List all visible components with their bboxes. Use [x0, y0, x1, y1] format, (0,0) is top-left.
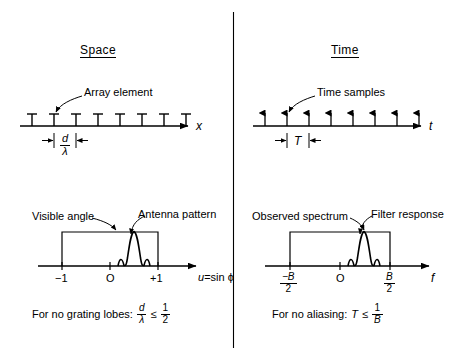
array-element	[71, 114, 81, 126]
space-tick-zero: O	[106, 273, 115, 284]
array-element	[159, 114, 169, 126]
figure-root: Space Array element x d λ Visible angle …	[0, 0, 465, 359]
visible-angle-box	[62, 232, 158, 266]
grating-lhs-num: d	[137, 303, 147, 315]
visible-angle-label: Visible angle	[32, 211, 94, 222]
grating-lhs-den: λ	[137, 315, 147, 326]
spectrum-tick-minus-b-over-2: −B 2	[280, 272, 297, 294]
aliasing-relation: ≤	[362, 309, 368, 320]
space-axis-label: x	[196, 120, 202, 132]
space-u-axis-label: u=sin ϕ	[198, 272, 234, 283]
array-elements	[27, 114, 191, 126]
antenna-pattern-label: Antenna pattern	[138, 209, 216, 220]
aliasing-rhs: 1 B	[372, 303, 383, 325]
visible-angle-leader	[92, 218, 116, 230]
array-element-label: Array element	[84, 87, 152, 98]
minus-b-den: 2	[280, 284, 297, 295]
time-samples-leader	[289, 96, 315, 112]
u-sinphi: sin ϕ	[211, 271, 234, 283]
aliasing-condition-text: For no aliasing:	[272, 309, 347, 320]
array-element	[49, 114, 59, 126]
time-spacing-label: T	[294, 135, 301, 147]
filter-response-curve	[348, 232, 380, 267]
grating-lobe-condition: For no grating lobes: d λ ≤ 1 2	[32, 303, 170, 325]
array-element	[115, 114, 125, 126]
space-tick-plus1: +1	[150, 273, 163, 284]
observed-spectrum-leader	[350, 218, 364, 230]
spectrum-tick-zero: O	[336, 273, 345, 284]
array-element	[137, 114, 147, 126]
aliasing-condition: For no aliasing: T ≤ 1 B	[272, 303, 383, 325]
plus-b-num: B	[384, 272, 395, 284]
array-element-leader	[56, 96, 82, 112]
filter-response-label: Filter response	[371, 209, 444, 220]
grating-relation: ≤	[150, 309, 156, 320]
aliasing-lhs: T	[351, 309, 358, 320]
grating-rhs-den: 2	[161, 315, 171, 326]
minus-b-num: −B	[280, 272, 297, 284]
grating-rhs-num: 1	[161, 303, 171, 315]
time-samples	[265, 113, 419, 126]
array-element	[181, 114, 191, 126]
time-axis-label: t	[429, 120, 432, 132]
observed-spectrum-label: Observed spectrum	[252, 211, 348, 222]
array-element	[93, 114, 103, 126]
plus-b-den: 2	[384, 284, 395, 295]
time-panel-title: Time	[331, 44, 359, 58]
time-samples-label: Time samples	[317, 87, 385, 98]
grating-lobe-lhs: d λ	[137, 303, 147, 325]
aliasing-rhs-num: 1	[372, 303, 383, 315]
space-tick-minus1: −1	[55, 273, 68, 284]
antenna-pattern-curve	[118, 232, 150, 267]
array-spacing-numerator: d	[60, 133, 70, 146]
space-panel-title: Space	[80, 44, 116, 58]
array-spacing-label: d λ	[60, 133, 70, 157]
array-element	[27, 114, 37, 126]
spectrum-tick-b-over-2: B 2	[384, 272, 395, 294]
aliasing-rhs-den: B	[372, 315, 383, 326]
array-spacing-denominator: λ	[60, 146, 70, 158]
grating-lobe-rhs: 1 2	[161, 303, 171, 325]
grating-lobe-condition-text: For no grating lobes:	[32, 309, 133, 320]
spectrum-axis-label: f	[431, 272, 434, 284]
